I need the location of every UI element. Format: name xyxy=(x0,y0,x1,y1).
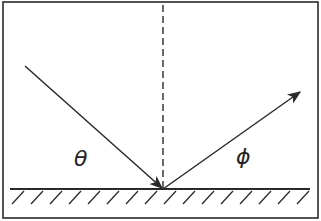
frame-border xyxy=(3,2,318,218)
surface-hatching xyxy=(12,191,309,204)
reflection-diagram xyxy=(0,0,321,221)
theta-label: θ xyxy=(74,148,87,170)
phi-label: ϕ xyxy=(236,146,251,168)
incident-ray-arrow xyxy=(25,66,162,188)
reflected-ray-arrow xyxy=(163,92,300,189)
